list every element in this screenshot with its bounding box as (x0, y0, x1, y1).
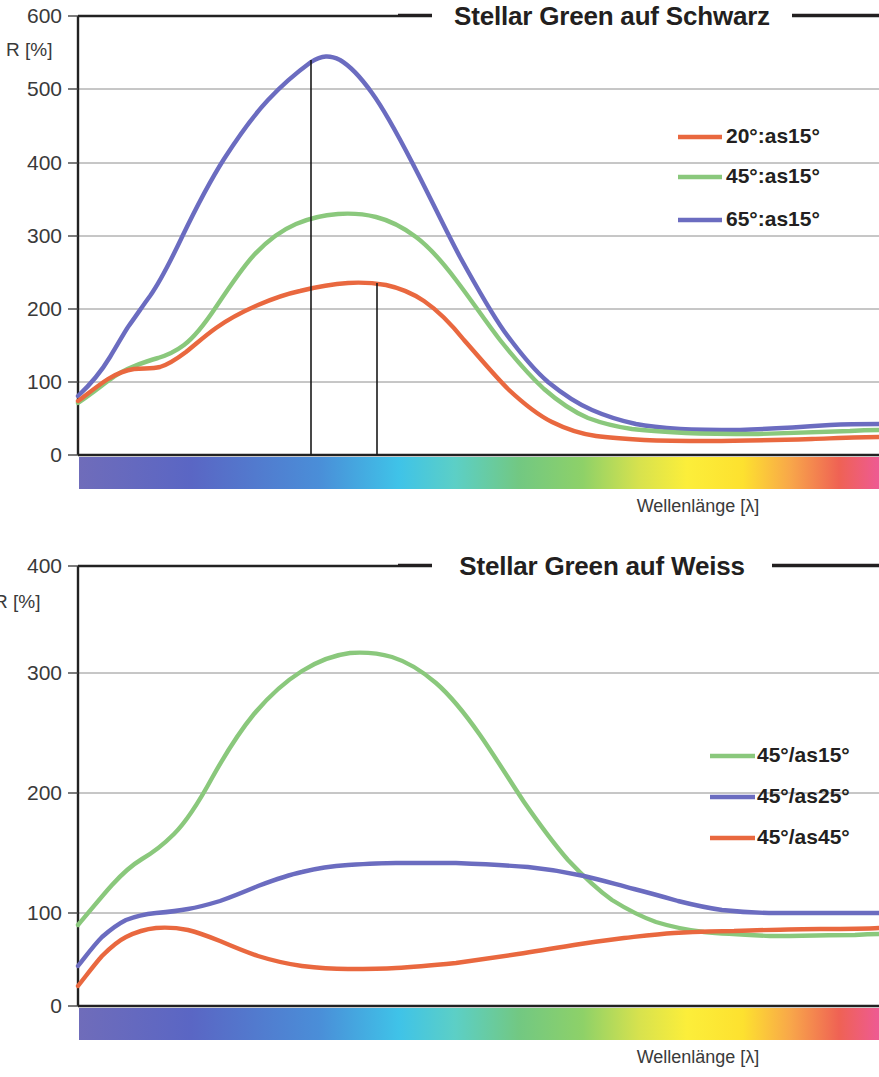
chart-2-y-axis-title: R [%] (0, 591, 40, 612)
chart-1-legend-label-2: 65°:as15° (726, 207, 820, 230)
chart-2-legend-item-1[interactable]: 45°/as25° (710, 784, 850, 807)
chart-1-y-axis-title: R [%] (6, 39, 52, 60)
chart-2-legend-label-1: 45°/as25° (757, 784, 850, 807)
chart-2-ytick-100: 100 (27, 901, 62, 924)
chart-1-legend-item-2[interactable]: 65°:as15° (678, 207, 820, 230)
chart-2-tickmarks (68, 566, 78, 1006)
chart-1-ytick-100: 100 (27, 370, 62, 393)
chart-2-title: Stellar Green auf Weiss (459, 551, 744, 581)
chart-1-ytick-0: 0 (50, 443, 62, 466)
chart-2-ytick-400: 400 (27, 554, 62, 577)
chart-1-ytick-200: 200 (27, 297, 62, 320)
chart-2-legend-item-0[interactable]: 45°/as15° (710, 743, 850, 766)
chart-1-title-group: Stellar Green auf Schwarz (398, 0, 879, 32)
chart-2-legend-label-2: 45°/as45° (757, 825, 850, 848)
chart-stellar-green-auf-weiss: 400 300 200 100 0 R [%] Stellar Green au… (0, 548, 879, 1077)
chart-2-svg: 400 300 200 100 0 R [%] Stellar Green au… (0, 548, 879, 1077)
chart-2-x-axis-title: Wellenlänge [λ] (637, 1047, 760, 1067)
chart-1-curve-45deg (78, 214, 879, 434)
chart-1-tickmarks (68, 16, 78, 455)
chart-2-ytick-0: 0 (50, 994, 62, 1017)
chart-1-spectrum-bar (79, 457, 879, 489)
chart-1-ytick-500: 500 (27, 77, 62, 100)
chart-1-legend-item-0[interactable]: 20°:as15° (678, 124, 820, 147)
chart-stellar-green-auf-schwarz: 600 500 400 300 200 100 0 R [%] Stellar … (0, 0, 879, 535)
chart-1-ytick-600: 600 (27, 4, 62, 27)
chart-2-legend: 45°/as15° 45°/as25° 45°/as45° (710, 743, 850, 848)
chart-1-ytick-400: 400 (27, 151, 62, 174)
chart-1-legend-label-1: 45°:as15° (726, 164, 820, 187)
chart-2-ytick-300: 300 (27, 661, 62, 684)
chart-2-curve-as25 (78, 863, 879, 966)
chart-1-x-axis-title: Wellenlänge [λ] (637, 496, 760, 516)
chart-2-title-group: Stellar Green auf Weiss (398, 550, 879, 582)
chart-2-ytick-200: 200 (27, 781, 62, 804)
chart-1-legend-item-1[interactable]: 45°:as15° (678, 164, 820, 187)
chart-1-title: Stellar Green auf Schwarz (454, 1, 770, 31)
chart-2-legend-item-2[interactable]: 45°/as45° (710, 825, 850, 848)
chart-2-spectrum-bar (79, 1008, 879, 1040)
chart-1-curve-65deg (78, 56, 879, 430)
chart-1-ytick-300: 300 (27, 224, 62, 247)
chart-1-legend: 20°:as15° 45°:as15° 65°:as15° (678, 124, 820, 230)
chart-2-legend-label-0: 45°/as15° (757, 743, 850, 766)
chart-1-legend-label-0: 20°:as15° (726, 124, 820, 147)
chart-1-curve-20deg (78, 283, 879, 441)
chart-1-svg: 600 500 400 300 200 100 0 R [%] Stellar … (0, 0, 879, 535)
